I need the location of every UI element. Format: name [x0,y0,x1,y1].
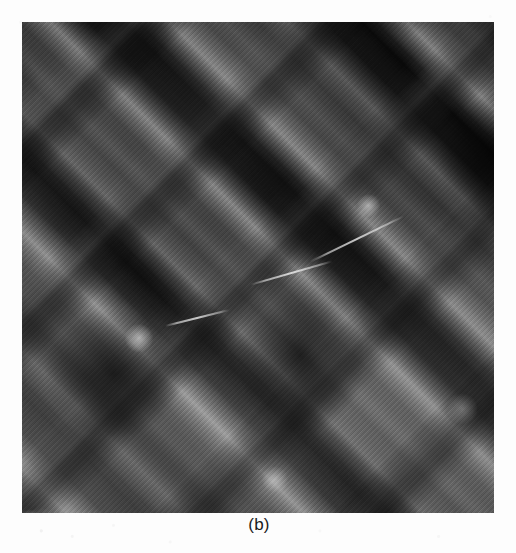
dark-pockets-overlay [22,22,494,513]
hairline-1 [250,261,332,286]
raster-striations [22,22,494,513]
band-lobe-segmentation-b [22,22,494,513]
band-lobe-segmentation-a [22,22,494,513]
hairline-2 [310,215,404,262]
pixel-grain-overlay [22,22,494,513]
bright-hotspots-overlay [22,22,494,513]
micrograph-panel [22,22,494,513]
hairline-3 [164,309,228,326]
panel-base-field [22,22,494,513]
tone-vignette-overlay [22,22,494,513]
diagonal-bands-family-b [22,22,494,513]
diagonal-bands-family-a [22,22,494,513]
figure-page: (b) [0,0,516,553]
figure-caption: (b) [0,514,516,536]
diagonal-bands-family-a-wide [22,22,494,513]
figure-caption-label: (b) [246,514,269,536]
